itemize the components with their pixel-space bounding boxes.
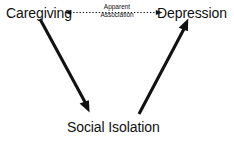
mediation-diagram: Caregiving Depression Social Isolation A… [0, 0, 234, 142]
edge-label-line-1: Apparent [91, 3, 143, 11]
social-isolation-depression-line [139, 27, 185, 114]
edge-caregiving-to-social-isolation [40, 19, 90, 113]
edge-social-isolation-to-depression [139, 19, 188, 115]
arrowhead-down-to-social-isolation [80, 100, 90, 112]
caregiving-social-isolation-line [40, 19, 86, 103]
edge-label-line-2: Association [91, 11, 143, 19]
node-label-social-isolation: Social Isolation [67, 119, 160, 135]
edge-label-apparent-association: Apparent Association [91, 3, 143, 18]
node-label-caregiving: Caregiving [6, 5, 72, 21]
node-label-depression: Depression [157, 5, 227, 21]
